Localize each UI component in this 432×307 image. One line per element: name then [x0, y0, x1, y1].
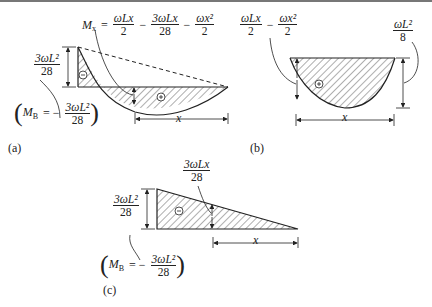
panel-a-caption: (a): [8, 141, 21, 156]
panel-c-diagram: [130, 186, 298, 260]
panel-a-moment-equation: Mx = ωLx2 − 3ωLx28 − ωx²2: [80, 12, 214, 37]
panel-a-height-label: 3ωL²28: [34, 52, 60, 77]
panel-b-x-label: x: [342, 111, 347, 123]
panel-a-x-label: x: [176, 112, 181, 124]
panel-b-caption: (b): [250, 141, 264, 156]
mx-symbol: M: [82, 19, 92, 31]
panel-c-caption: (c): [103, 283, 116, 298]
term2-fraction: 3ωLx28: [151, 12, 178, 37]
equals-sign: =: [101, 19, 108, 31]
panel-c-height-label: 3ωL²28: [113, 193, 139, 218]
panel-a-support-moment: (MB = − 3ωL²28): [14, 100, 99, 126]
panel-b-height-label: ωL²8: [393, 18, 413, 43]
mx-subscript: x: [92, 24, 96, 33]
panel-b-moment-equation: ωLx2 − ωx²2: [240, 12, 297, 37]
term3-fraction: ωx²2: [195, 12, 214, 37]
panel-c-x-label: x: [253, 234, 258, 246]
panel-c-moment-label: 3ωLx28: [183, 158, 210, 183]
panel-c-support-moment: (MB = − 3ωL²28): [100, 252, 185, 278]
diagram-canvas: [0, 0, 432, 307]
term1-fraction: ωLx2: [113, 12, 135, 37]
